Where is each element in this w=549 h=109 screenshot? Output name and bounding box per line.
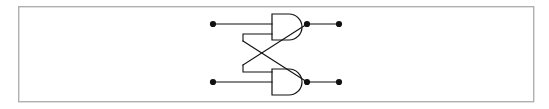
gate-top[interactable] — [272, 14, 302, 40]
gate-bottom-body — [272, 69, 302, 95]
gate-bottom[interactable] — [272, 69, 302, 95]
logic-circuit-diagram — [0, 0, 549, 109]
terminal-input-top[interactable] — [210, 21, 216, 27]
node-dot-bottom-output[interactable] — [304, 79, 310, 85]
terminal-input-bottom[interactable] — [210, 79, 216, 85]
gate-top-body — [272, 14, 302, 40]
figure-root — [0, 0, 549, 109]
node-dot-top-output[interactable] — [304, 21, 310, 27]
terminal-output-top[interactable] — [336, 21, 342, 27]
terminal-output-bottom[interactable] — [336, 79, 342, 85]
